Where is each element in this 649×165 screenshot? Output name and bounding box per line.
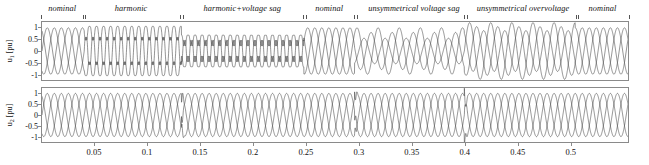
x-tick-mark	[518, 143, 519, 146]
y-tick-label: -0.5	[25, 122, 38, 131]
region-label: harmonic	[115, 4, 148, 13]
x-tick-mark	[200, 143, 201, 146]
x-tick-mark	[306, 143, 307, 146]
region-boundary-tick	[41, 15, 42, 19]
x-tick-label: 0.05	[87, 147, 102, 157]
region-boundary-tick	[629, 15, 630, 19]
region-boundary-tick	[354, 15, 355, 19]
x-tick-label: 0.35	[404, 147, 419, 157]
region-label: unsymmetrical voltage sag	[368, 4, 459, 13]
x-tick-mark	[412, 143, 413, 146]
figure-root: nominalharmonicharmonic+voltage sagnomin…	[0, 0, 649, 165]
region-label: nominal	[589, 4, 617, 13]
y-axis-label-bottom-sub: 2	[9, 119, 15, 122]
waveform-plot-u1	[42, 22, 628, 80]
y-tick-label: 0.5	[28, 99, 38, 108]
x-tick-label: 0.15	[192, 147, 207, 157]
y-axis-label-bottom: u2 [pu]	[5, 89, 16, 141]
subplot-u1	[41, 21, 629, 81]
x-tick-label: 0.3	[354, 147, 365, 157]
region-boundary-tick	[83, 15, 84, 19]
region-annotation-strip: nominalharmonicharmonic+voltage sagnomin…	[0, 0, 649, 20]
x-tick-label: 0.25	[298, 147, 313, 157]
y-axis-label-top: u1 [pu]	[5, 25, 16, 77]
x-tick-mark	[359, 143, 360, 146]
y-tick-label: -1	[31, 133, 38, 142]
y-axis-label-top-sub: 1	[9, 55, 15, 58]
waveform-plot-u2	[42, 88, 628, 142]
y-tick-label: 0.5	[28, 35, 38, 44]
y-tick-label: -0.5	[25, 59, 38, 68]
region-boundary-tick	[303, 15, 304, 19]
region-label: nominal	[48, 4, 76, 13]
y-axis-label-top-unit: [pu]	[5, 40, 14, 53]
region-boundary-tick	[576, 15, 577, 19]
region-boundary-tick	[180, 15, 181, 19]
region-label: nominal	[315, 4, 343, 13]
x-tick-label: 0.45	[510, 147, 525, 157]
x-tick-mark	[571, 143, 572, 146]
y-axis-top: u1 [pu] 10.50-0.5-1	[0, 21, 41, 81]
y-axis-bottom: u2 [pu] 10.50-0.5-1	[0, 87, 41, 143]
x-tick-mark	[253, 143, 254, 146]
subplot-u2	[41, 87, 629, 143]
y-tick-label: -1	[31, 71, 38, 80]
waveform-trace-phase-b	[42, 93, 628, 142]
y-axis-label-top-main: u	[5, 58, 14, 62]
region-boundary-tick	[464, 15, 465, 19]
y-axis-label-bottom-main: u	[5, 122, 14, 126]
x-tick-label: 0.2	[248, 147, 259, 157]
x-axis: 0.050.10.150.20.250.30.350.40.450.5	[41, 143, 629, 165]
x-tick-label: 0.4	[459, 147, 470, 157]
x-tick-label: 0.5	[565, 147, 576, 157]
region-label: harmonic+voltage sag	[204, 4, 281, 13]
x-tick-label: 0.1	[142, 147, 153, 157]
region-label: unsymmetrical overvoltage	[477, 4, 570, 13]
x-tick-mark	[147, 143, 148, 146]
y-axis-label-bottom-unit: [pu]	[5, 104, 14, 117]
x-tick-mark	[94, 143, 95, 146]
x-tick-mark	[465, 143, 466, 146]
